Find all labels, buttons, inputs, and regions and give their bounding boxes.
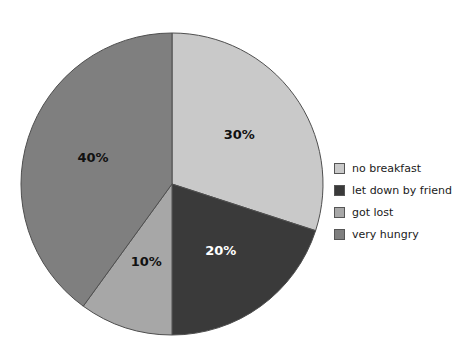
legend-item[interactable]: let down by friend (334, 179, 464, 201)
legend-item-label: let down by friend (352, 184, 452, 197)
legend-item[interactable]: got lost (334, 201, 464, 223)
legend-item[interactable]: no breakfast (334, 157, 464, 179)
legend-swatch-icon (334, 229, 345, 240)
pie-slice-value-label: 20% (205, 243, 236, 258)
legend-swatch-icon (334, 163, 345, 174)
legend-swatch-icon (334, 185, 345, 196)
legend-item[interactable]: very hungry (334, 223, 464, 245)
legend-swatch-icon (334, 207, 345, 218)
pie-slice-value-label: 10% (131, 254, 162, 269)
legend-item-label: got lost (352, 206, 393, 219)
legend-item-label: no breakfast (352, 162, 421, 175)
legend: no breakfastlet down by friendgot lostve… (334, 157, 464, 245)
pie-slice-value-label: 40% (77, 150, 108, 165)
legend-item-label: very hungry (352, 228, 419, 241)
pie-slice-group (21, 33, 323, 335)
pie-slice-value-label: 30% (224, 127, 255, 142)
pie-chart-page: 30%20%10%40% no breakfastlet down by fri… (0, 0, 468, 356)
